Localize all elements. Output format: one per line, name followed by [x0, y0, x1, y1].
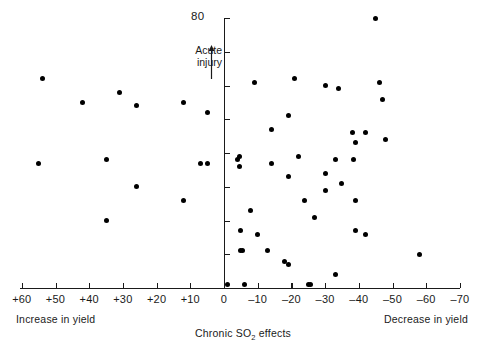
data-point	[237, 154, 242, 159]
data-point	[323, 188, 328, 193]
data-point	[252, 80, 257, 85]
x-tick-0	[22, 283, 23, 288]
data-point	[292, 76, 297, 81]
x-tick-4	[157, 283, 158, 288]
y-tick-1	[225, 52, 230, 53]
x-tick-label-13: –70	[440, 293, 480, 305]
x-tick-13	[460, 283, 461, 288]
data-point	[286, 174, 291, 179]
x-axis-title: Chronic SO2 effects	[0, 327, 486, 342]
data-point	[363, 130, 368, 135]
data-point	[417, 252, 422, 257]
data-point	[238, 228, 243, 233]
data-point	[377, 80, 382, 85]
y-tick-6	[225, 221, 230, 222]
data-point	[351, 157, 356, 162]
x-axis-line	[20, 288, 460, 289]
data-point	[353, 198, 358, 203]
data-point	[269, 161, 274, 166]
y-tick-2	[225, 86, 230, 87]
data-point	[296, 154, 301, 159]
data-point	[104, 218, 109, 223]
data-point	[255, 232, 260, 237]
data-point	[181, 198, 186, 203]
x-tick-3	[123, 283, 124, 288]
data-point	[205, 110, 210, 115]
data-point	[240, 248, 245, 253]
data-point	[117, 90, 122, 95]
x-tick-8	[291, 283, 292, 288]
data-point	[205, 161, 210, 166]
y-tick-7	[225, 254, 230, 255]
data-point	[383, 137, 388, 142]
data-point	[323, 171, 328, 176]
data-point	[134, 184, 139, 189]
data-point	[80, 100, 85, 105]
data-point	[36, 161, 41, 166]
x-tick-9	[325, 283, 326, 288]
data-point	[104, 157, 109, 162]
data-point	[248, 208, 253, 213]
data-point	[40, 76, 45, 81]
data-point	[225, 282, 230, 287]
y-tick-3	[225, 119, 230, 120]
data-point	[242, 282, 247, 287]
data-point	[363, 232, 368, 237]
y-tick-5	[225, 187, 230, 188]
data-point	[312, 215, 317, 220]
data-point	[333, 272, 338, 277]
x-tick-2	[89, 283, 90, 288]
decrease-in-yield-caption: Decrease in yield	[384, 313, 468, 325]
scatter-chart-figure: 80 Acute injury Increase in yield Decrea…	[0, 0, 486, 346]
data-point	[323, 83, 328, 88]
y-axis-top-tick-label: 80	[191, 10, 204, 22]
x-tick-12	[426, 283, 427, 288]
data-point	[373, 16, 378, 21]
x-tick-5	[190, 283, 191, 288]
data-point	[353, 140, 358, 145]
x-tick-10	[359, 283, 360, 288]
x-tick-11	[393, 283, 394, 288]
data-point	[333, 157, 338, 162]
data-point	[269, 127, 274, 132]
acute-injury-up-arrow-icon	[207, 45, 216, 79]
increase-in-yield-caption: Increase in yield	[16, 313, 95, 325]
data-point	[286, 113, 291, 118]
data-point	[350, 130, 355, 135]
x-tick-7	[258, 283, 259, 288]
data-point	[339, 181, 344, 186]
data-point	[302, 198, 307, 203]
x-tick-1	[56, 283, 57, 288]
data-point	[181, 100, 186, 105]
data-point	[198, 161, 203, 166]
data-point	[286, 262, 291, 267]
data-point	[380, 97, 385, 102]
data-point	[308, 282, 313, 287]
data-point	[353, 228, 358, 233]
y-tick-4	[225, 153, 230, 154]
data-point	[134, 103, 139, 108]
data-point	[265, 248, 270, 253]
data-point	[237, 164, 242, 169]
data-point	[336, 86, 341, 91]
y-tick-0	[225, 18, 230, 19]
